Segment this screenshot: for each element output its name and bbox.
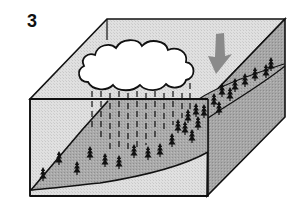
terrain-block-diagram xyxy=(0,0,296,212)
